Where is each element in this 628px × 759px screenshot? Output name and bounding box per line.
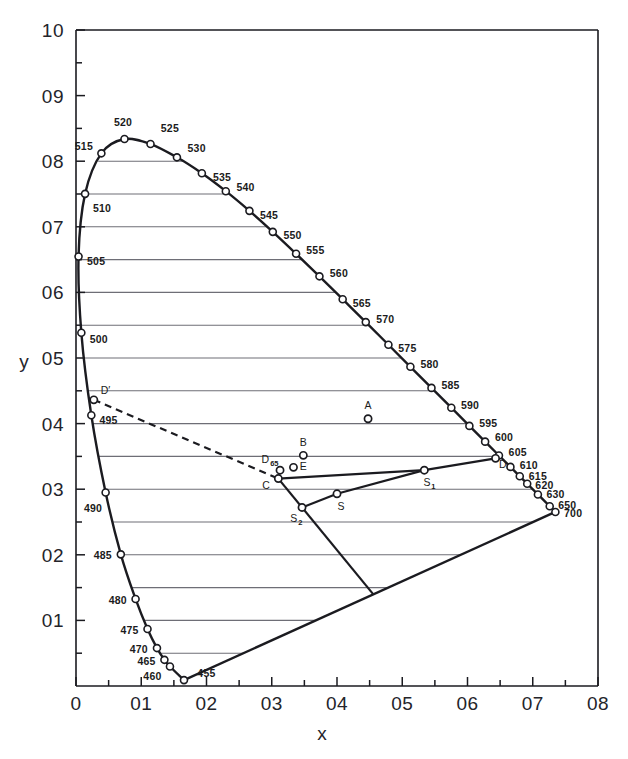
special-point-label-text: S [337, 500, 344, 512]
special-point-label-C: C [262, 479, 270, 491]
segment-S1-D [424, 458, 495, 470]
special-point-label-subscript: 65 [270, 459, 278, 468]
special-point-label-text: C [262, 479, 270, 491]
wavelength-label: 510 [93, 202, 111, 214]
wavelength-label: 555 [306, 244, 324, 256]
locus-marker [153, 645, 160, 652]
purple-line [184, 512, 555, 680]
locus-marker [293, 250, 300, 257]
special-point-marker-C [275, 475, 282, 482]
locus-marker [82, 190, 89, 197]
wavelength-label: 500 [90, 333, 108, 345]
locus-marker [428, 384, 435, 391]
y-tick-label: 10 [42, 20, 64, 41]
locus-marker [546, 503, 553, 510]
y-tick-label: 04 [42, 414, 64, 435]
locus-marker [407, 363, 414, 370]
special-point-marker-A [364, 415, 371, 422]
x-tick-label: 07 [522, 693, 544, 714]
locus-marker [117, 551, 124, 558]
special-point-label-text: D [499, 458, 507, 470]
special-point-marker-E [290, 464, 297, 471]
special-point-marker-S2 [298, 504, 305, 511]
special-point-label-text: D′ [101, 384, 111, 396]
x-tick-label: 04 [326, 693, 348, 714]
wavelength-label: 560 [330, 267, 348, 279]
special-point-label-text: S [290, 512, 297, 524]
wavelength-label: 485 [94, 549, 112, 561]
wavelength-label: 540 [237, 181, 255, 193]
y-tick-label: 07 [42, 217, 64, 238]
special-point-label-text: B [300, 436, 307, 448]
wavelength-label: 550 [283, 229, 301, 241]
locus-marker [466, 422, 473, 429]
locus-marker [222, 188, 229, 195]
special-point-label-Dprime: D′ [101, 384, 111, 396]
wavelength-label: 495 [99, 414, 117, 426]
locus-marker [246, 207, 253, 214]
locus-marker [102, 489, 109, 496]
wavelength-label: 545 [260, 209, 278, 221]
locus-marker [339, 296, 346, 303]
x-axis-title: x [317, 723, 327, 744]
y-tick-label: 09 [42, 86, 64, 107]
chart-canvas: 4554604654704754804854904955005055105155… [0, 0, 628, 759]
wavelength-label: 490 [84, 502, 102, 514]
wavelength-label: 575 [398, 342, 416, 354]
y-axis-title: y [19, 351, 29, 372]
wavelength-label: 475 [121, 624, 139, 636]
wavelength-label: 590 [461, 399, 479, 411]
locus-marker [88, 412, 95, 419]
wavelength-label: 505 [87, 255, 105, 267]
locus-marker [144, 626, 151, 633]
locus-marker [147, 141, 154, 148]
special-point-marker-Dprime [90, 396, 97, 403]
x-tick-label: 0 [70, 693, 81, 714]
wavelength-label: 700 [564, 507, 582, 519]
wavelength-label: 585 [441, 379, 459, 391]
special-point-label-S2: S2 [290, 512, 302, 527]
special-point-label-A: A [365, 399, 372, 411]
wavelength-label: 455 [197, 667, 215, 679]
locus-marker [269, 228, 276, 235]
locus-marker [385, 341, 392, 348]
x-tick-label: 05 [391, 693, 413, 714]
y-tick-label: 06 [42, 282, 64, 303]
special-point-marker-S1 [421, 467, 428, 474]
special-point-marker-S [333, 490, 340, 497]
x-tick-label: 06 [456, 693, 478, 714]
wavelength-label: 605 [509, 446, 527, 458]
locus-marker [198, 170, 205, 177]
special-point-label-B: B [300, 436, 307, 448]
wavelength-label: 465 [137, 655, 155, 667]
x-tick-label: 03 [261, 693, 283, 714]
x-tick-label: 02 [195, 693, 217, 714]
wavelength-label: 595 [479, 417, 497, 429]
special-point-marker-B [300, 452, 307, 459]
wavelength-label: 520 [114, 116, 132, 128]
special-point-label-subscript: 2 [298, 518, 302, 527]
locus-marker [516, 473, 523, 480]
wavelength-label: 530 [188, 142, 206, 154]
wavelength-label: 535 [213, 171, 231, 183]
locus-marker [362, 319, 369, 326]
y-tick-label: 02 [42, 545, 64, 566]
wavelength-label: 515 [75, 140, 93, 152]
locus-marker [448, 404, 455, 411]
locus-marker [98, 150, 105, 157]
special-point-label-subscript: 1 [431, 482, 435, 491]
wavelength-label: 600 [495, 431, 513, 443]
special-point-label-D65: D65 [262, 453, 279, 468]
special-point-label-text: D [262, 453, 270, 465]
special-point-label-text: S [424, 476, 431, 488]
wavelength-label: 460 [143, 670, 161, 682]
special-point-label-E: E [300, 460, 307, 472]
wavelength-label: 470 [130, 643, 148, 655]
special-point-label-D: D [499, 458, 507, 470]
wavelength-labels: 4554604654704754804854904955005055105155… [75, 116, 582, 682]
wavelength-label: 565 [353, 297, 371, 309]
locus-marker [132, 595, 139, 602]
spectral-locus [78, 139, 555, 680]
y-tick-label: 01 [42, 610, 64, 631]
segment-S2-S [302, 494, 337, 508]
